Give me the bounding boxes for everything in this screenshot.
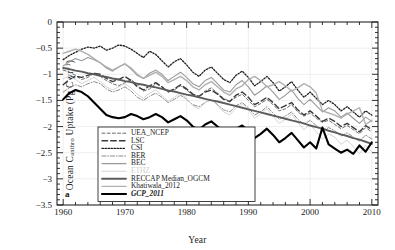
plot-canvas: aUEA_NCEPLSCCSIBERBECETHZRECCAP Median_O…: [0, 0, 395, 250]
series-line-khatiwala-2012: [63, 49, 372, 124]
panel-label: a: [65, 189, 70, 199]
figure-panel-a: Ocean Canthro Uptake (Pg C yr−1) Year 0−…: [0, 0, 395, 250]
legend-label-gcp-2011: GCP_2011: [131, 189, 164, 198]
legend-box: [98, 127, 255, 201]
